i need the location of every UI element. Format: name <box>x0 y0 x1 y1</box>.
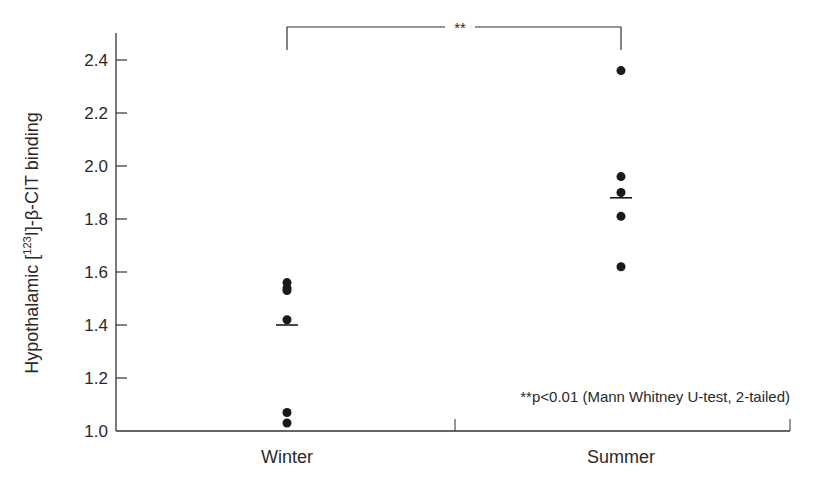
x-category-label: Winter <box>261 447 313 467</box>
data-point <box>617 262 626 271</box>
bracket-left <box>287 27 445 50</box>
bracket-right <box>475 27 621 50</box>
data-points <box>276 66 632 427</box>
data-point <box>283 419 292 428</box>
y-tick-label: 1.8 <box>84 210 108 229</box>
significance-bracket: ** <box>287 19 621 50</box>
data-point <box>617 212 626 221</box>
significance-stars: ** <box>454 19 466 36</box>
footnote-text: **p<0.01 (Mann Whitney U-test, 2-tailed) <box>520 388 790 405</box>
data-point <box>283 286 292 295</box>
data-point <box>283 408 292 417</box>
y-tick-label: 1.4 <box>84 316 108 335</box>
data-point <box>617 172 626 181</box>
y-tick-label: 1.6 <box>84 263 108 282</box>
y-tick-label: 1.2 <box>84 369 108 388</box>
y-tick-label: 1.0 <box>84 422 108 441</box>
data-point <box>617 188 626 197</box>
y-tick-label: 2.2 <box>84 104 108 123</box>
data-point <box>617 66 626 75</box>
y-tick-label: 2.0 <box>84 157 108 176</box>
x-category-label: Summer <box>587 447 655 467</box>
y-tick-label: 2.4 <box>84 51 108 70</box>
data-point <box>283 315 292 324</box>
scatter-chart: 1.01.21.41.61.82.02.22.4WinterSummer ** … <box>0 0 831 493</box>
